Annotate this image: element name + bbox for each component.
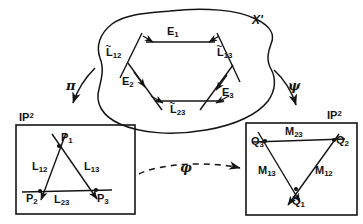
right-point-Q3-text: Q	[251, 135, 260, 147]
left-point-P2-dot	[38, 189, 42, 193]
right-line-M12-label: M12	[315, 165, 333, 178]
right-point-Q1-text: Q	[292, 195, 301, 207]
psi-map-label: ψ	[288, 79, 300, 92]
left-point-P2-label: P2	[26, 193, 38, 206]
right-line-M23-sub: 23	[294, 130, 302, 139]
hex-line-L12-tilde	[120, 33, 142, 78]
left-point-P1-sub: 1	[68, 136, 72, 145]
right-point-Q3-sub: 3	[260, 140, 264, 149]
right-line-M13-label: M13	[258, 165, 276, 178]
left-point-P3-sub: 3	[104, 197, 108, 206]
right-point-Q1-sub: 1	[301, 200, 305, 209]
left-point-P1-label: P1	[61, 132, 73, 145]
hex-arrow-E2	[134, 72, 145, 87]
left-point-P2-sub: 2	[33, 197, 37, 206]
left-line-L12-label: L12	[32, 161, 47, 174]
pi-map-label: π	[66, 79, 76, 92]
right-line-M23-text: M	[285, 125, 294, 137]
hex-label-L23-sub: 23	[177, 108, 185, 117]
right-point-Q1-label: Q1	[292, 196, 305, 209]
hex-label-E2-sub: 2	[129, 80, 133, 89]
right-point-Q2-label: Q2	[336, 135, 349, 148]
right-point-Q2-text: Q	[336, 134, 345, 146]
right-line-M23-label: M23	[285, 126, 303, 139]
right-point-Q1-dot	[294, 187, 298, 191]
left-line-L23-label: L23	[54, 194, 69, 207]
left-plane-space-exp: 2	[29, 111, 33, 120]
hex-label-L13-tilde: ~L13	[217, 47, 232, 60]
left-line-L13-label: L13	[84, 161, 99, 174]
figure-canvas: X' E1 E2 E3 ~L12 ~L13 ~L23 π ψ φ IP2 IP2…	[0, 0, 363, 224]
right-line-M13-sub: 13	[267, 169, 275, 178]
hex-label-L12-tilde: ~L12	[106, 47, 121, 60]
right-line-M12-text: M	[315, 164, 324, 176]
hex-label-E1-sub: 1	[174, 30, 178, 39]
x-prime-blob-outline	[98, 9, 275, 133]
hex-label-L12-sub: 12	[113, 51, 121, 60]
right-plane-space-label: IP2	[327, 110, 342, 121]
right-line-M12-sub: 12	[324, 169, 332, 178]
right-line-M13-text: M	[258, 164, 267, 176]
left-line-L13-text: L	[84, 160, 91, 172]
tilde-accent-L12: ~L	[106, 47, 113, 58]
hex-label-E3: E3	[222, 87, 234, 100]
phi-map-label: φ	[180, 161, 192, 174]
left-plane-space-text: IP	[19, 111, 29, 123]
left-line-L13-sub: 13	[91, 165, 99, 174]
hex-label-L13-sub: 13	[224, 51, 232, 60]
left-point-P3-label: P3	[97, 193, 109, 206]
hex-label-E3-sub: 3	[229, 91, 233, 100]
hex-label-E2: E2	[122, 76, 134, 89]
tilde-glyph-L23: ~	[170, 98, 176, 108]
hex-arrow-E1-left	[143, 36, 153, 42]
right-point-Q3-label: Q3	[251, 136, 264, 149]
tilde-glyph-L12: ~	[106, 41, 112, 51]
tilde-accent-L13: ~L	[217, 47, 224, 58]
hex-label-L23-tilde: ~L23	[170, 104, 185, 117]
left-plane-space-label: IP2	[19, 112, 34, 123]
left-line-L12-sub: 12	[39, 165, 47, 174]
left-line-L23-text: L	[54, 193, 61, 205]
pi-arrow-curve	[73, 68, 95, 103]
right-plane-space-exp: 2	[337, 109, 341, 118]
hex-label-E1: E1	[167, 26, 179, 39]
tilde-accent-L23: ~L	[170, 104, 177, 115]
tilde-glyph-L13: ~	[217, 41, 223, 51]
left-line-L12-text: L	[32, 160, 39, 172]
x-prime-label: X'	[252, 14, 263, 26]
left-line-L23-sub: 23	[61, 198, 69, 207]
right-point-Q2-sub: 2	[345, 139, 349, 148]
right-plane-space-text: IP	[327, 109, 337, 121]
